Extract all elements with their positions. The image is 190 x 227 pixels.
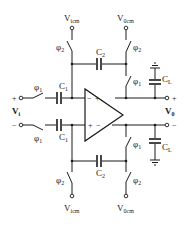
- vicm-bottom-label: Vicm: [64, 203, 80, 214]
- input-plus-sign: +: [12, 94, 17, 103]
- vicm-top-label: Vicm: [64, 13, 80, 24]
- vocm-top-label: V0cm: [117, 13, 134, 24]
- vi-label: Vi: [12, 106, 21, 117]
- input-minus-sign: −: [12, 121, 17, 130]
- phi2-top-left-label: φ2: [56, 42, 64, 53]
- phi1-bottom-right-switch: [126, 125, 131, 161]
- input-top-branch: [19, 92, 85, 104]
- input-bottom-branch: [19, 119, 85, 131]
- vicm-bottom-switch: [67, 161, 74, 198]
- output-minus-sign: −: [172, 121, 177, 130]
- vocm-bottom-switch: [124, 161, 131, 198]
- vocm-bottom-label: V0cm: [117, 203, 134, 214]
- vo-label: V0: [165, 106, 175, 117]
- c1-top-label: C1: [59, 81, 68, 92]
- c2-top-capacitor: [71, 58, 128, 70]
- cl-top-capacitor: [149, 63, 161, 98]
- output-top-branch: [115, 96, 169, 100]
- phi2-bottom-right-label: φ2: [133, 175, 141, 186]
- output-plus-sign: +: [172, 94, 177, 103]
- c2-top-label: C2: [96, 47, 105, 58]
- phi1-input-top-label: φ1: [34, 82, 42, 93]
- vocm-top-switch: [124, 26, 131, 64]
- output-bottom-branch: [112, 123, 169, 127]
- phi1-top-right-label: φ1: [133, 76, 141, 87]
- circuit-diagram: Vicm V0cm φ2 φ2 C2 φ1 CL φ1 C1 + Vi − − …: [0, 0, 190, 227]
- cl-bottom-label: CL: [162, 142, 172, 153]
- phi2-bottom-left-label: φ2: [56, 175, 64, 186]
- phi1-input-bottom-label: φ1: [34, 133, 42, 144]
- cl-top-label: CL: [162, 74, 172, 85]
- opamp-in-minus-sign: −: [87, 94, 92, 103]
- cl-bottom-capacitor: [149, 125, 161, 165]
- opamp-in-plus-sign: +: [88, 121, 93, 130]
- phi2-top-right-label: φ2: [133, 42, 141, 53]
- opamp-out-minus-sign: −: [96, 121, 101, 130]
- vicm-top-switch: [67, 26, 74, 98]
- phi1-bottom-right-label: φ1: [133, 139, 141, 150]
- opamp-out-plus-sign: +: [95, 94, 100, 103]
- c1-bottom-label: C1: [59, 132, 68, 143]
- phi1-top-right-switch: [126, 64, 131, 98]
- c2-bottom-label: C2: [96, 168, 105, 179]
